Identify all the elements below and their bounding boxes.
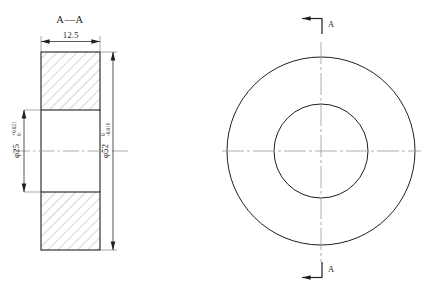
section-view-group	[14, 36, 128, 250]
section-mark-bottom	[302, 262, 322, 278]
section-title-label: A—A	[56, 14, 83, 25]
dimension-inner-diameter-label-group: φ25 +0.021 0	[11, 121, 23, 158]
section-lower-body	[41, 192, 100, 250]
engineering-drawing-sheet: A—A 12.5 φ25 +0.021 0 φ52 0 -0.019 A A	[0, 0, 433, 294]
section-mark-top-label: A	[328, 19, 335, 29]
front-view-group	[222, 18, 421, 278]
dimension-inner-diameter-lower-tolerance: 0	[16, 133, 22, 136]
dimension-outer-diameter-label-group: φ52 0 -0.019	[100, 122, 112, 158]
dimension-outer-diameter-lower-tolerance: -0.019	[105, 122, 111, 136]
drawing-canvas: A—A 12.5 φ25 +0.021 0 φ52 0 -0.019 A A	[0, 0, 433, 294]
section-mark-bottom-label: A	[328, 264, 335, 274]
dimension-inner-diameter-symbol: φ25	[11, 143, 21, 158]
dimension-outer-diameter-symbol: φ52	[100, 144, 110, 158]
dimension-thickness-label: 12.5	[63, 30, 79, 40]
section-mark-top	[302, 18, 322, 34]
section-upper-body	[41, 52, 100, 110]
